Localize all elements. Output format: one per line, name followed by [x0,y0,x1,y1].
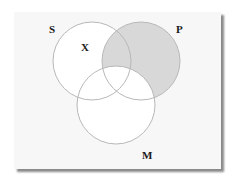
label-m: M [142,149,153,161]
label-p: P [176,23,183,35]
label-x: X [81,41,89,53]
label-s: S [49,23,55,35]
venn-diagram: S X P M [0,0,239,185]
